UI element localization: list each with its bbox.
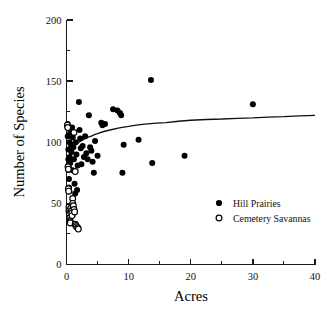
data-point: [73, 151, 79, 157]
data-point: [119, 170, 125, 176]
data-point: [90, 159, 96, 165]
data-point: [66, 188, 72, 194]
x-tick-label: 30: [248, 271, 259, 282]
y-tick-label: 100: [46, 137, 62, 148]
data-point: [72, 169, 78, 175]
scatter-plot-figure: 010203040050100150200 Hill Prairies Ceme…: [0, 0, 336, 311]
data-point: [82, 133, 88, 139]
data-point: [182, 153, 188, 159]
data-point: [91, 170, 97, 176]
data-point: [77, 127, 83, 133]
data-point: [118, 112, 124, 118]
data-point: [65, 166, 71, 172]
data-point: [95, 153, 101, 159]
legend-marker-hill-prairies: [216, 200, 222, 206]
data-point: [76, 99, 82, 105]
data-point: [71, 130, 77, 136]
plot-canvas: 010203040050100150200 Hill Prairies Ceme…: [0, 0, 336, 311]
data-points-group: [65, 77, 256, 232]
data-point: [88, 148, 94, 154]
data-point: [148, 77, 154, 83]
x-tick-label: 0: [64, 271, 69, 282]
tick-labels-group: 010203040050100150200: [46, 15, 321, 282]
data-point: [78, 161, 84, 167]
y-tick-label: 150: [46, 76, 62, 87]
data-point: [149, 160, 155, 166]
data-point: [121, 142, 127, 148]
y-tick-label: 0: [56, 259, 61, 270]
legend-label-cemetery-savannas: Cemetery Savannas: [233, 213, 311, 224]
y-tick-label: 50: [51, 198, 62, 209]
axes-group: [67, 20, 316, 265]
legend-marker-cemetery-savannas: [216, 215, 222, 221]
x-tick-label: 20: [186, 271, 197, 282]
data-point: [65, 125, 71, 131]
data-point: [92, 138, 98, 144]
data-point: [72, 209, 78, 215]
y-axis-title: Number of Species: [11, 86, 27, 197]
data-point: [80, 143, 86, 149]
data-point: [102, 121, 108, 127]
x-tick-label: 40: [310, 271, 321, 282]
data-point: [250, 101, 256, 107]
data-point: [75, 226, 81, 232]
y-tick-label: 200: [46, 15, 62, 26]
data-point: [136, 137, 142, 143]
legend-label-hill-prairies: Hill Prairies: [233, 198, 281, 209]
ticks-group: [67, 20, 316, 265]
x-tick-label: 10: [123, 271, 134, 282]
legend: Hill Prairies Cemetery Savannas: [216, 198, 311, 224]
data-point: [86, 112, 92, 118]
data-point: [72, 181, 78, 187]
data-point: [74, 187, 80, 193]
x-axis-title: Acres: [174, 288, 208, 304]
data-point: [66, 176, 72, 182]
